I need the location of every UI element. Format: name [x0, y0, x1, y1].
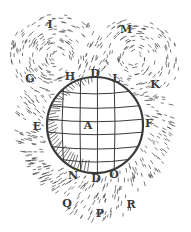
figure-label-g: G [25, 73, 34, 84]
figure-label-i: I [47, 19, 52, 30]
figure-label-f: F [145, 118, 153, 129]
figure-label-e: E [33, 121, 41, 132]
figure-label-n: N [68, 170, 78, 181]
figure-label-h: H [65, 71, 75, 82]
figure-label-r: R [126, 199, 135, 210]
figure-label-p: P [96, 208, 104, 219]
figure-label-l: L [112, 73, 120, 84]
figure-label-k: K [150, 79, 160, 90]
figure-label-q: Q [62, 198, 72, 209]
figure-label-m: M [120, 24, 132, 35]
field-lines-drawing [0, 0, 191, 232]
figure-label-o: O [109, 169, 119, 180]
figure-label-d: D [90, 68, 100, 79]
figure-label-d: D [91, 173, 101, 184]
figure-label-a: A [84, 120, 93, 131]
magnet-sphere-engraving: IMGHDLKEAFNDOQPR [0, 0, 191, 232]
